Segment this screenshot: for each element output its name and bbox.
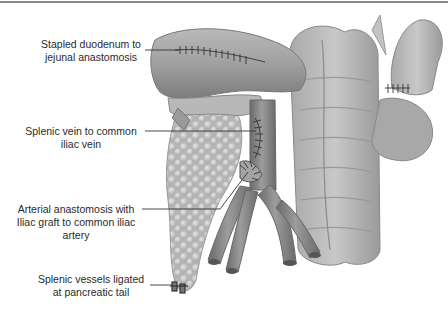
duodenum-segment <box>151 29 306 130</box>
label-line: Splenic vein to common <box>20 125 142 138</box>
label-arterial-anastomosis: Arterial anastomosis with Iliac graft to… <box>15 203 137 242</box>
jejunal-loop <box>372 15 442 161</box>
label-line: at pancreatic tail <box>30 286 152 299</box>
label-line: Splenic vessels ligated <box>30 273 152 286</box>
label-line: iliac vein <box>20 138 142 151</box>
label-line: Arterial anastomosis with <box>15 203 137 216</box>
label-splenic-vessels-ligated: Splenic vessels ligated at pancreatic ta… <box>30 273 152 299</box>
label-line: Stapled duodenum to <box>30 38 152 51</box>
label-line: Iliac graft to common iliac <box>15 216 137 229</box>
label-duodenum-jejunal-anastomosis: Stapled duodenum to jejunal anastomosis <box>30 38 152 64</box>
label-line: artery <box>15 229 137 242</box>
label-splenic-vein-anastomosis: Splenic vein to common iliac vein <box>20 125 142 151</box>
label-line: jejunal anastomosis <box>30 51 152 64</box>
